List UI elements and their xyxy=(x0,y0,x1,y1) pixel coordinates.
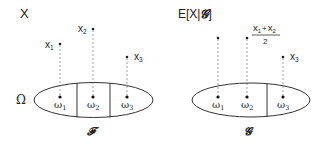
averaged-point-1 xyxy=(217,37,220,40)
outcome-label-3: ω3 xyxy=(121,99,133,112)
value-label-x1: x1 xyxy=(45,39,54,51)
value-point-x3 xyxy=(126,56,129,59)
outcome-label-right-2: ω2 xyxy=(241,99,253,112)
conditional-expectation-diagram: X x1 x2 x3 Ω ω1 ω2 ω3 𝓕 E[X|𝓖] xyxy=(0,0,323,147)
outcome-label-2: ω2 xyxy=(87,99,99,112)
value-label-x2: x2 xyxy=(78,23,87,35)
omega-space-label: Ω xyxy=(16,93,26,107)
average-fraction-label: x1+x2 2 xyxy=(252,22,280,46)
value-point-x2 xyxy=(92,28,95,31)
value-label-x3-right: x3 xyxy=(290,51,299,63)
outcome-label-right-3: ω3 xyxy=(277,99,289,112)
value-label-x3: x3 xyxy=(134,51,143,63)
fraction-denominator: 2 xyxy=(263,37,268,46)
fraction-numerator: x1+x2 xyxy=(253,22,277,34)
sigma-algebra-g-label: 𝓖 xyxy=(244,125,254,138)
outcome-label-right-1: ω1 xyxy=(212,99,224,112)
random-variable-title: X xyxy=(20,6,29,21)
value-point-x1 xyxy=(59,43,62,46)
value-point-x3 xyxy=(282,56,285,59)
outcome-label-1: ω1 xyxy=(54,99,66,112)
right-panel: E[X|𝓖] x1+x2 2 x3 ω1 ω2 ω3 𝓖 xyxy=(178,7,310,138)
conditional-expectation-title: E[X|𝓖] xyxy=(178,7,212,21)
left-panel: X x1 x2 x3 Ω ω1 ω2 ω3 𝓕 xyxy=(16,6,153,138)
sigma-algebra-f-label: 𝓕 xyxy=(86,125,100,138)
averaged-point-2 xyxy=(246,37,249,40)
